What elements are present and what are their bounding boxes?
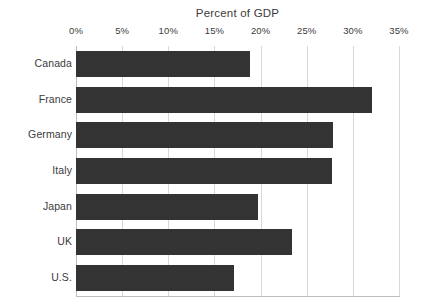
bar-canada: [76, 51, 250, 77]
x-tick-label: 5%: [115, 25, 129, 36]
bar-germany: [76, 122, 333, 148]
bar-row: [76, 87, 399, 113]
y-category-label: Italy: [0, 164, 72, 176]
bar-chart: Percent of GDP CanadaFranceGermanyItalyJ…: [0, 0, 431, 308]
x-tick-label: 20%: [251, 25, 270, 36]
y-category-label: France: [0, 93, 72, 105]
plot-area: 0%5%10%15%20%25%30%35%: [76, 46, 399, 296]
bar-france: [76, 87, 372, 113]
bar-japan: [76, 194, 258, 220]
x-tick-label: 10%: [159, 25, 178, 36]
bar-italy: [76, 158, 332, 184]
x-tick-label: 0%: [69, 25, 83, 36]
x-axis-baseline: [76, 296, 400, 297]
x-tick-label: 25%: [297, 25, 316, 36]
bar-uk: [76, 229, 292, 255]
x-tick-label: 35%: [389, 25, 408, 36]
y-category-label: Canada: [0, 57, 72, 69]
y-axis-category-labels: CanadaFranceGermanyItalyJapanUKU.S.: [0, 46, 72, 296]
y-category-label: Japan: [0, 200, 72, 212]
chart-title: Percent of GDP: [76, 7, 399, 19]
bar-row: [76, 265, 399, 291]
bar-row: [76, 194, 399, 220]
bar-row: [76, 229, 399, 255]
bar-row: [76, 51, 399, 77]
y-category-label: Germany: [0, 128, 72, 140]
bar-u-s: [76, 265, 234, 291]
y-category-label: UK: [0, 235, 72, 247]
gridline-35pct: [399, 46, 400, 296]
bar-row: [76, 158, 399, 184]
x-tick-label: 30%: [343, 25, 362, 36]
x-tick-label: 15%: [205, 25, 224, 36]
y-category-label: U.S.: [0, 271, 72, 283]
bar-row: [76, 122, 399, 148]
